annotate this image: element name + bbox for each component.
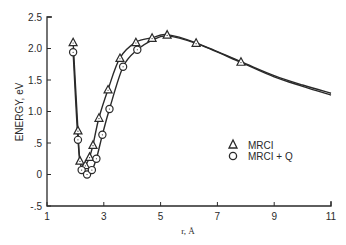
x-axis-label: r, Å xyxy=(181,226,195,236)
chart-svg: -.50.51.01.52.02.51357911 MRCI MRCI + Q … xyxy=(0,0,346,245)
y-tick-label: 1.5 xyxy=(28,75,42,86)
x-tick-label: 5 xyxy=(158,211,164,222)
triangle-marker-icon xyxy=(76,157,84,165)
x-tick-label: 9 xyxy=(271,211,277,222)
y-tick-label: 2.0 xyxy=(28,43,42,54)
x-tick-label: 7 xyxy=(215,211,221,222)
circle-marker-icon xyxy=(229,152,236,159)
marker-dot xyxy=(96,158,97,159)
triangle-marker-icon xyxy=(132,38,140,46)
legend: MRCI MRCI + Q xyxy=(229,140,293,162)
marker-dot xyxy=(167,35,168,36)
x-tick-label: 1 xyxy=(44,211,50,222)
marker-dot xyxy=(73,42,74,43)
marker-dot xyxy=(85,165,86,166)
marker-dot xyxy=(98,118,99,119)
marker-dot xyxy=(77,139,78,140)
marker-dot xyxy=(109,108,110,109)
y-tick-label: 2.5 xyxy=(28,12,42,23)
triangle-marker-icon xyxy=(74,126,82,133)
marker-dot xyxy=(123,66,124,67)
triangle-marker-icon xyxy=(69,38,77,46)
legend-item-mrci-q: MRCI + Q xyxy=(229,151,293,162)
marker-dot xyxy=(91,169,92,170)
legend-label-mrci: MRCI xyxy=(248,140,274,151)
marker-dot xyxy=(107,90,108,91)
marker-dot xyxy=(92,145,93,146)
legend-item-mrci: MRCI xyxy=(229,140,274,151)
triangle-marker-icon xyxy=(104,85,112,93)
y-tick-label: 0 xyxy=(36,169,42,180)
marker-dot xyxy=(196,43,197,44)
marker-dot xyxy=(119,58,120,59)
triangle-marker-icon xyxy=(116,54,124,62)
y-axis-label: ENERGY, eV xyxy=(14,82,25,141)
marker-dot xyxy=(102,134,103,135)
marker-dot xyxy=(137,49,138,50)
marker-dot xyxy=(79,161,80,162)
y-tick-label: 1.0 xyxy=(28,106,42,117)
marker-dot xyxy=(240,62,241,63)
x-tick-label: 3 xyxy=(101,211,107,222)
triangle-marker-icon xyxy=(229,140,237,148)
marker-dot xyxy=(151,38,152,39)
marker-dot xyxy=(77,131,78,132)
y-tick-label: .5 xyxy=(34,138,43,149)
marker-dot xyxy=(86,174,87,175)
legend-label-mrci-q: MRCI + Q xyxy=(248,151,293,162)
marker-dot xyxy=(73,52,74,53)
marker-dot xyxy=(135,42,136,43)
x-tick-label: 11 xyxy=(326,211,337,222)
energy-curve-chart: -.50.51.01.52.02.51357911 MRCI MRCI + Q … xyxy=(0,0,346,245)
marker-dot xyxy=(81,169,82,170)
triangle-marker-icon xyxy=(89,141,97,149)
y-tick-label: -.5 xyxy=(30,201,42,212)
marker-dot xyxy=(89,157,90,158)
triangle-marker-icon xyxy=(95,114,103,122)
